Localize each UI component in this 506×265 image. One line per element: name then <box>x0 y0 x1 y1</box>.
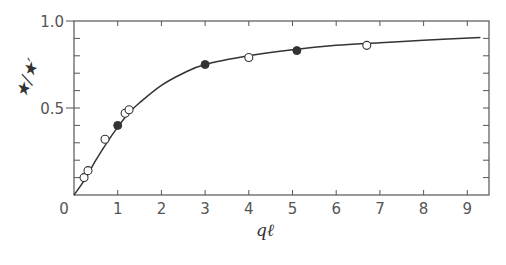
open-circle-point <box>101 135 109 143</box>
data-points <box>80 41 371 181</box>
open-circle-point <box>84 167 92 175</box>
axes: 01234567890.51.0 <box>40 13 489 218</box>
theory-curve-path <box>74 38 480 195</box>
x-tick-label: 6 <box>331 200 341 218</box>
y-axis-label: ★/★′ <box>11 56 43 100</box>
x-tick-label: 3 <box>200 200 210 218</box>
x-tick-label: 9 <box>463 200 473 218</box>
x-tick-label: 8 <box>419 200 429 218</box>
chart: 01234567890.51.0 qℓ ★/★′ <box>0 0 506 265</box>
x-tick-label: 1 <box>113 200 123 218</box>
filled-circle-point <box>293 47 301 55</box>
x-tick-label: 2 <box>157 200 167 218</box>
axis-labels: qℓ ★/★′ <box>11 56 274 240</box>
y-tick-label: 0.5 <box>40 100 64 118</box>
x-tick-label: 7 <box>375 200 385 218</box>
filled-circle-point <box>114 121 122 129</box>
x-tick-label: 4 <box>244 200 254 218</box>
open-circle-point <box>245 54 253 62</box>
filled-circle-point <box>201 61 209 69</box>
theory-curve <box>74 38 480 195</box>
open-circle-point <box>125 106 133 114</box>
x-axis-label: qℓ <box>256 220 274 240</box>
x-tick-label: 5 <box>288 200 298 218</box>
y-tick-label: 1.0 <box>40 13 64 31</box>
open-circle-point <box>363 41 371 49</box>
plot-frame <box>74 21 489 195</box>
x-tick-label: 0 <box>59 200 69 218</box>
